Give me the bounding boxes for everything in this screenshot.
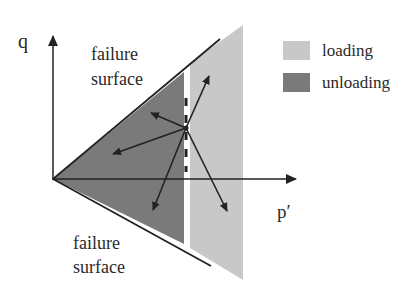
- legend-swatch-loading: [283, 41, 310, 60]
- stress-path-diagram: q p′ failure surface failure surface loa…: [0, 0, 418, 291]
- q-axis-label: q: [18, 30, 28, 53]
- upper-failure-label-line1: failure: [91, 44, 138, 64]
- upper-failure-label-line2: surface: [91, 69, 143, 89]
- current-stress-point: [184, 126, 189, 131]
- legend-label-loading: loading: [322, 41, 373, 60]
- p-axis-label: p′: [277, 201, 291, 222]
- legend-label-unloading: unloading: [322, 73, 390, 92]
- unloading-region: [53, 72, 184, 244]
- legend: loading unloading: [283, 41, 390, 92]
- lower-failure-label-line2: surface: [73, 257, 125, 277]
- legend-swatch-unloading: [283, 73, 310, 92]
- lower-failure-label-line1: failure: [73, 233, 120, 253]
